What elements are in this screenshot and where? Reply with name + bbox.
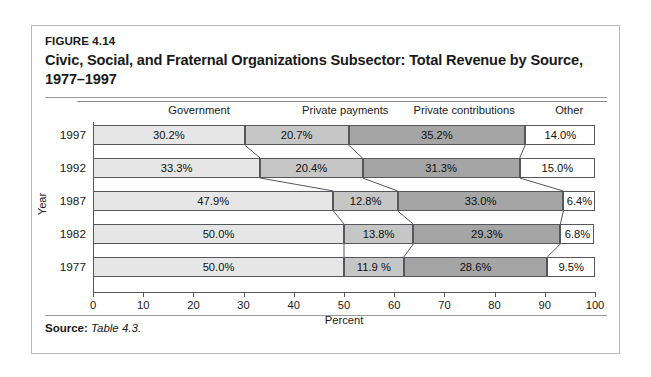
column-header-private-payments: Private payments — [302, 104, 388, 116]
connector-line — [404, 244, 414, 257]
column-header-government: Government — [168, 104, 230, 116]
bar-segment-other-1977: 9.5% — [547, 257, 595, 277]
connector-line — [560, 211, 563, 224]
x-tick-label-90: 90 — [539, 299, 551, 311]
bar-segment-private-contributions-1977: 28.6% — [404, 257, 548, 277]
x-tick-label-80: 80 — [488, 299, 500, 311]
x-tick-label-50: 50 — [338, 299, 350, 311]
bar-segment-other-1987: 6.4% — [563, 191, 595, 211]
x-tick-100 — [595, 292, 596, 297]
x-tick-label-10: 10 — [137, 299, 149, 311]
bar-row-1977: 50.0%11.9 %28.6%9.5% — [32, 257, 621, 277]
bar-segment-government-1977: 50.0% — [93, 257, 344, 277]
bar-segment-other-1992: 15.0% — [520, 158, 595, 178]
x-tick-label-100: 100 — [586, 299, 605, 311]
x-tick-80 — [495, 292, 496, 297]
bar-segment-government-1987: 47.9% — [93, 191, 333, 211]
x-tick-label-40: 40 — [288, 299, 300, 311]
column-header-other: Other — [555, 104, 583, 116]
bar-segment-government-1992: 33.3% — [93, 158, 260, 178]
bar-segment-private-payments-1977: 11.9 % — [344, 257, 404, 277]
bar-segment-private-contributions-1997: 35.2% — [349, 125, 526, 145]
bar-segment-private-contributions-1992: 31.3% — [363, 158, 520, 178]
header-divider — [77, 101, 607, 102]
bar-segment-private-contributions-1987: 33.0% — [398, 191, 564, 211]
connector-line — [349, 145, 363, 158]
x-tick-label-30: 30 — [237, 299, 249, 311]
bar-segment-private-contributions-1982: 29.3% — [413, 224, 560, 244]
bar-segment-private-payments-1992: 20.4% — [260, 158, 362, 178]
x-tick-60 — [394, 292, 395, 297]
x-tick-label-60: 60 — [388, 299, 400, 311]
x-tick-label-20: 20 — [187, 299, 199, 311]
bar-segment-private-payments-1982: 13.8% — [344, 224, 413, 244]
source-note: Source: Table 4.3. — [45, 322, 141, 334]
figure-card: FIGURE 4.14 Civic, Social, and Fraternal… — [31, 25, 620, 354]
connector-line — [333, 211, 344, 224]
stacked-bar-chart: GovernmentPrivate paymentsPrivate contri… — [32, 26, 621, 315]
connector-line — [547, 244, 560, 257]
x-tick-10 — [143, 292, 144, 297]
x-tick-20 — [193, 292, 194, 297]
connector-line — [260, 178, 333, 191]
x-tick-70 — [444, 292, 445, 297]
source-value: Table 4.3. — [91, 322, 141, 334]
bar-segment-other-1982: 6.8% — [560, 224, 594, 244]
x-tick-90 — [545, 292, 546, 297]
bar-segment-government-1982: 50.0% — [93, 224, 344, 244]
column-header-private-contributions: Private contributions — [413, 104, 514, 116]
connector-line — [245, 145, 261, 158]
bar-row-1987: 47.9%12.8%33.0%6.4% — [32, 191, 621, 211]
bar-segment-other-1997: 14.0% — [525, 125, 595, 145]
bar-row-1982: 50.0%13.8%29.3%6.8% — [32, 224, 621, 244]
connector-line — [363, 178, 398, 191]
connector-line — [520, 145, 526, 158]
x-tick-50 — [344, 292, 345, 297]
connector-line — [520, 178, 564, 191]
bar-segment-government-1997: 30.2% — [93, 125, 245, 145]
connector-line — [398, 211, 414, 224]
bar-segment-private-payments-1997: 20.7% — [245, 125, 349, 145]
bar-row-1997: 30.2%20.7%35.2%14.0% — [32, 125, 621, 145]
x-tick-0 — [93, 292, 94, 297]
x-tick-label-70: 70 — [438, 299, 450, 311]
source-label: Source: — [45, 322, 88, 334]
bar-segment-private-payments-1987: 12.8% — [333, 191, 397, 211]
x-tick-40 — [294, 292, 295, 297]
source-divider — [45, 315, 607, 316]
x-tick-30 — [244, 292, 245, 297]
column-header-row: GovernmentPrivate paymentsPrivate contri… — [32, 104, 621, 120]
x-tick-label-0: 0 — [90, 299, 96, 311]
bar-row-1992: 33.3%20.4%31.3%15.0% — [32, 158, 621, 178]
